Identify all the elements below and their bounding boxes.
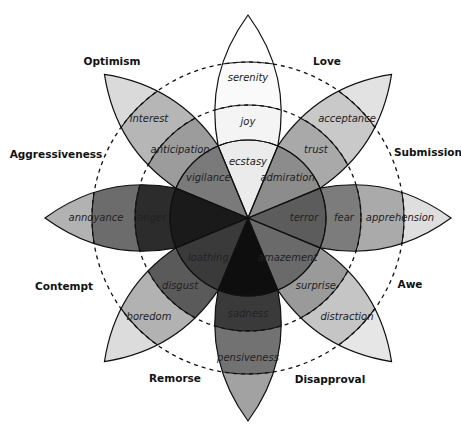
emotion-label-disgust: disgust: [162, 280, 199, 291]
emotion-label-apprehension: apprehension: [366, 212, 434, 223]
dyad-label-love: Love: [313, 55, 341, 67]
emotion-label-admiration: admiration: [260, 172, 314, 183]
emotion-label-interest: interest: [130, 113, 170, 124]
emotion-label-distraction: distraction: [320, 311, 373, 322]
dyad-label-disapproval: Disapproval: [295, 373, 366, 385]
emotion-label-anticipation: anticipation: [151, 144, 210, 155]
dyad-label-aggressiveness: Aggressiveness: [10, 148, 103, 160]
emotion-label-acceptance: acceptance: [318, 113, 376, 124]
emotion-label-annoyance: annoyance: [69, 212, 124, 223]
emotion-label-vigilance: vigilance: [186, 172, 231, 183]
emotion-label-boredom: boredom: [127, 311, 172, 322]
dyad-label-remorse: Remorse: [149, 372, 201, 384]
dyad-label-awe: Awe: [398, 278, 423, 290]
emotion-label-ecstasy: ecstasy: [229, 156, 268, 167]
emotion-label-trust: trust: [304, 144, 329, 155]
emotion-wheel-diagram: ecstasyjoyserenityadmirationtrustaccepta…: [0, 0, 461, 432]
emotion-label-serenity: serenity: [228, 72, 270, 83]
emotion-label-loathing: loathing: [188, 252, 229, 263]
dyad-label-contempt: Contempt: [35, 280, 93, 292]
emotion-label-surprise: surprise: [296, 280, 336, 291]
emotion-label-anger: anger: [137, 212, 167, 223]
emotion-label-amazement: amazement: [258, 252, 319, 263]
emotion-label-joy: joy: [239, 116, 257, 127]
dyad-label-optimism: Optimism: [84, 55, 141, 67]
emotion-label-terror: terror: [290, 212, 319, 223]
dyad-label-submission: Submission: [394, 146, 461, 158]
emotion-label-pensiveness: pensiveness: [216, 352, 279, 363]
emotion-label-sadness: sadness: [228, 308, 269, 319]
emotion-label-fear: fear: [334, 212, 355, 223]
